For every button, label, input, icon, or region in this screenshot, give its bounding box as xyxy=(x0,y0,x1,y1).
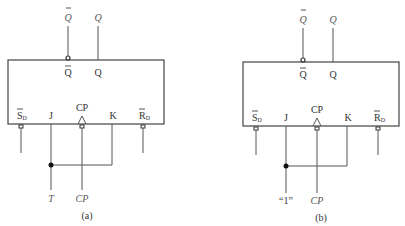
inversion-bubble-icon xyxy=(301,58,305,62)
q-pin-label: Q xyxy=(94,67,102,78)
qbar-pin-label: Q xyxy=(299,69,307,80)
diagram-b: Q Q Q Q SD J CP K RD “1” CP (b) xyxy=(243,10,399,224)
k-pin-label: K xyxy=(109,110,117,121)
rd-bubble-icon xyxy=(376,127,380,130)
k-pin-label: K xyxy=(344,112,352,123)
cp-input-label: CP xyxy=(76,193,89,204)
inversion-bubble-icon xyxy=(66,56,70,60)
j-pin-label: J xyxy=(49,110,53,121)
diagram-a: Q Q Q Q SD J CP K RD T CP (a) xyxy=(8,8,164,222)
junction-dot-icon xyxy=(284,164,289,169)
cp-input-label: CP xyxy=(311,195,324,206)
cp-pin-label: CP xyxy=(76,102,89,113)
q-pin-label: Q xyxy=(329,69,337,80)
j-pin-label: J xyxy=(284,112,288,123)
logic-one-input-label: “1” xyxy=(279,195,293,206)
caption-a: (a) xyxy=(81,210,92,222)
qbar-pin-label: Q xyxy=(64,67,72,78)
cp-bubble-icon xyxy=(80,125,84,128)
sd-bubble-icon xyxy=(19,125,23,128)
qbar-ext-label: Q xyxy=(64,12,72,23)
caption-b: (b) xyxy=(315,212,327,224)
jk-flipflop-figure: Q Q Q Q SD J CP K RD T CP (a) xyxy=(0,0,405,226)
cp-bubble-icon xyxy=(315,127,319,130)
qbar-ext-label: Q xyxy=(299,14,307,25)
rd-bubble-icon xyxy=(141,125,145,128)
q-ext-label: Q xyxy=(94,12,102,23)
t-input-label: T xyxy=(48,193,55,204)
q-ext-label: Q xyxy=(329,14,337,25)
junction-dot-icon xyxy=(49,163,54,168)
cp-pin-label: CP xyxy=(311,104,324,115)
sd-bubble-icon xyxy=(254,127,258,130)
